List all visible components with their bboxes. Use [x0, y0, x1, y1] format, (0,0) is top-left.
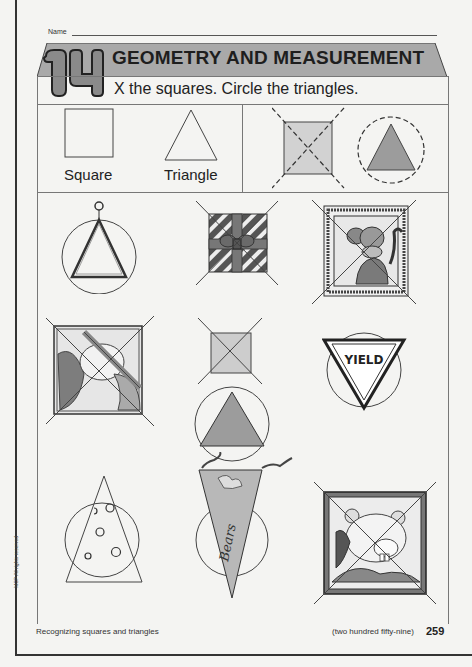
item-cheese-wedge[interactable]	[64, 474, 146, 584]
example-triangle-circled	[355, 114, 427, 186]
example-triangle-shape	[163, 108, 219, 162]
example-square-crossed	[272, 104, 348, 190]
item-musical-triangle[interactable]	[60, 198, 140, 294]
name-field-line[interactable]	[72, 35, 437, 36]
page-bottom-border	[15, 654, 472, 656]
example-divider	[242, 104, 243, 192]
chapter-title: GEOMETRY AND MEASUREMENT	[112, 47, 424, 69]
item-gray-square[interactable]	[196, 316, 264, 386]
footer-page-words: (two hundred fifty-nine)	[332, 627, 414, 636]
divider	[37, 192, 448, 193]
example-square-shape	[64, 108, 116, 160]
svg-text:YIELD: YIELD	[344, 353, 384, 367]
page-number: 259	[426, 625, 444, 637]
name-label: Name	[48, 28, 67, 35]
copyright-notice: MCP All rights reserved	[13, 528, 19, 588]
item-pennant[interactable]: Bears	[192, 452, 302, 602]
divider	[37, 76, 448, 77]
example-triangle-label: Triangle	[164, 166, 218, 183]
item-framed-monkey[interactable]	[312, 200, 418, 310]
example-square-label: Square	[64, 166, 112, 183]
item-yield-sign[interactable]: YIELD	[322, 330, 408, 412]
item-framed-beaver[interactable]	[314, 482, 438, 606]
item-framed-bear[interactable]	[44, 314, 156, 426]
footer-topic: Recognizing squares and triangles	[36, 627, 159, 636]
item-gift-box[interactable]	[194, 201, 280, 287]
